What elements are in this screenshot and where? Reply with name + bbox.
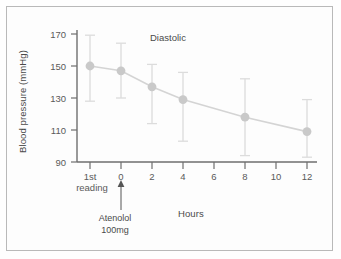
data-point-1st-reading: [86, 62, 95, 71]
dose-arrow-icon: [118, 180, 125, 210]
data-line: [90, 66, 307, 132]
y-axis-title: Blood pressure (mmHg): [17, 42, 28, 162]
data-point-4h: [179, 95, 188, 104]
y-tick-label-170: 170: [38, 29, 66, 40]
error-bars: [85, 35, 312, 157]
data-point-0h: [117, 66, 126, 75]
data-point-2h: [148, 82, 157, 91]
x-tick-sublabel-reading: reading: [70, 182, 114, 193]
dose-annotation: Atenolol 100mg: [75, 212, 155, 236]
dose-amount: 100mg: [75, 224, 155, 236]
y-tick-label-110: 110: [38, 125, 66, 136]
x-axis-title: Hours: [178, 208, 204, 219]
y-tick-label-150: 150: [38, 61, 66, 72]
y-tick-label-90: 90: [38, 157, 66, 168]
y-tick-label-130: 130: [38, 93, 66, 104]
axes: [77, 30, 317, 162]
data-point-12h: [303, 127, 312, 136]
y-axis-ticks: [71, 34, 77, 162]
dose-drug-name: Atenolol: [75, 212, 155, 224]
data-point-8h: [241, 113, 250, 122]
chart-figure: 90 110 130 150 170 1st 0 2 4 6 8 10 12 r…: [0, 0, 341, 259]
series-annotation-diastolic: Diastolic: [150, 32, 186, 43]
x-tick-label-12: 12: [287, 171, 327, 182]
x-axis-ticks: [90, 162, 307, 169]
